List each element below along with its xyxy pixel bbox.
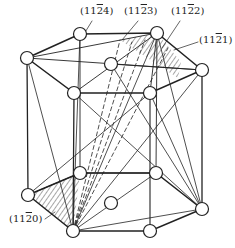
label-plane-11-2-2: (1122): [171, 6, 204, 16]
label-text: (11: [124, 5, 141, 16]
atom-bottom-front-left: [67, 225, 80, 238]
atom-bottom-front-right: [144, 225, 157, 238]
label-plane-11-2-4: (1124): [80, 6, 113, 16]
label-tail: 0): [32, 213, 42, 224]
label-text: (11: [171, 5, 188, 16]
atom-top-left: [21, 52, 34, 65]
label-text: (11: [9, 213, 26, 224]
atom-top-back-right: [151, 27, 164, 40]
hatched-plane-top: [120, 33, 181, 78]
label-plane-11-2-0: (1120): [9, 214, 42, 224]
atom-top-front-right: [144, 87, 157, 100]
atom-top-right: [196, 64, 209, 77]
label-plane-11-2-3: (1123): [124, 6, 157, 16]
label-text: (11: [80, 5, 97, 16]
label-tail: 1): [222, 34, 232, 45]
label-tail: 3): [147, 5, 157, 16]
atom-top-center: [105, 58, 118, 71]
atom-top-front-left: [68, 87, 81, 100]
atom-bottom-right: [196, 203, 209, 216]
atom-bottom-back-left: [74, 167, 87, 180]
label-tail: 4): [103, 5, 113, 16]
label-tail: 2): [194, 5, 204, 16]
atom-bottom-left: [22, 189, 35, 202]
atom-top-back-left: [74, 28, 87, 41]
label-plane-11-2-1: (1121): [199, 35, 232, 45]
atom-bottom-center: [105, 197, 118, 210]
atom-bottom-back-right: [150, 167, 163, 180]
label-text: (11: [199, 34, 216, 45]
